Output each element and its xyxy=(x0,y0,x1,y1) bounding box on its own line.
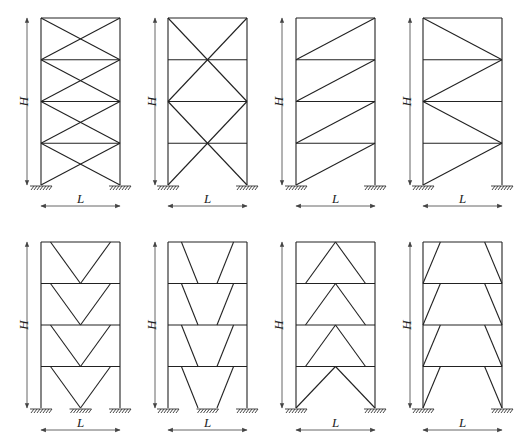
support-hatch xyxy=(116,186,119,190)
support-hatch xyxy=(158,186,161,190)
brace xyxy=(336,242,366,284)
width-label: L xyxy=(76,415,84,430)
support-hatch xyxy=(501,186,504,190)
support-hatch xyxy=(43,409,46,413)
support-hatch xyxy=(377,186,380,190)
support-hatch xyxy=(173,186,176,190)
support-hatch xyxy=(252,186,255,190)
brace xyxy=(336,367,376,409)
support-hatch xyxy=(201,409,204,413)
support-hatch xyxy=(286,409,289,413)
support-hatch xyxy=(252,409,255,413)
height-label: H xyxy=(271,320,286,331)
brace xyxy=(296,102,375,144)
brace xyxy=(423,367,440,409)
brace xyxy=(217,284,234,326)
support-hatch xyxy=(173,409,176,413)
support-hatch xyxy=(122,186,125,190)
support-hatch xyxy=(286,186,289,190)
support-hatch xyxy=(368,186,371,190)
support-hatch xyxy=(237,409,240,413)
support-hatch xyxy=(510,186,513,190)
support-hatch xyxy=(46,409,49,413)
support-hatch xyxy=(246,186,249,190)
support-hatch xyxy=(34,186,37,190)
support-hatch xyxy=(122,409,125,413)
support-hatch xyxy=(431,409,434,413)
support-hatch xyxy=(176,409,179,413)
support-hatch xyxy=(419,186,422,190)
width-label: L xyxy=(331,191,339,206)
brace xyxy=(81,284,111,326)
height-label: H xyxy=(16,320,31,331)
support-hatch xyxy=(301,409,304,413)
brace xyxy=(181,242,198,284)
support-hatch xyxy=(240,186,243,190)
support-hatch xyxy=(37,186,40,190)
support-hatch xyxy=(371,186,374,190)
height-label: H xyxy=(144,320,159,331)
height-label: H xyxy=(16,96,31,107)
fixed-support-icon xyxy=(412,186,434,190)
brace xyxy=(81,242,111,284)
width-label: L xyxy=(331,415,339,430)
brace xyxy=(296,60,375,102)
support-hatch xyxy=(498,186,501,190)
support-hatch xyxy=(377,409,380,413)
support-hatch xyxy=(119,186,122,190)
support-hatch xyxy=(301,186,304,190)
brace xyxy=(305,284,335,326)
support-hatch xyxy=(428,409,431,413)
support-hatch xyxy=(164,186,167,190)
support-hatch xyxy=(80,409,83,413)
support-hatch xyxy=(365,409,368,413)
fixed-support-icon xyxy=(157,186,179,190)
support-hatch xyxy=(125,186,128,190)
support-hatch xyxy=(40,186,43,190)
support-hatch xyxy=(304,186,307,190)
support-hatch xyxy=(116,409,119,413)
support-hatch xyxy=(507,186,510,190)
support-hatch xyxy=(161,409,164,413)
fixed-support-icon xyxy=(364,409,386,413)
support-hatch xyxy=(383,186,386,190)
support-hatch xyxy=(298,186,301,190)
support-hatch xyxy=(31,409,34,413)
support-hatch xyxy=(289,409,292,413)
brace xyxy=(423,242,440,284)
fixed-support-icon xyxy=(412,409,434,413)
support-hatch xyxy=(495,186,498,190)
support-hatch xyxy=(416,409,419,413)
braced-frames-figure: HLHLHLHLHLHLHLHL xyxy=(0,0,528,447)
support-hatch xyxy=(413,186,416,190)
brace xyxy=(296,367,336,409)
support-hatch xyxy=(243,409,246,413)
support-hatch xyxy=(295,409,298,413)
support-hatch xyxy=(304,409,307,413)
support-hatch xyxy=(498,409,501,413)
support-hatch xyxy=(40,409,43,413)
brace xyxy=(50,284,80,326)
support-hatch xyxy=(164,409,167,413)
support-hatch xyxy=(428,186,431,190)
brace xyxy=(296,18,375,60)
support-hatch xyxy=(510,409,513,413)
brace xyxy=(81,325,111,367)
support-hatch xyxy=(204,409,207,413)
support-hatch xyxy=(128,409,131,413)
brace xyxy=(217,242,234,284)
support-hatch xyxy=(289,186,292,190)
support-hatch xyxy=(240,409,243,413)
support-hatch xyxy=(198,409,201,413)
width-label: L xyxy=(458,191,466,206)
support-hatch xyxy=(419,409,422,413)
support-hatch xyxy=(128,186,131,190)
height-label: H xyxy=(399,96,414,107)
support-hatch xyxy=(113,186,116,190)
brace xyxy=(217,367,234,409)
support-hatch xyxy=(49,186,52,190)
support-hatch xyxy=(77,409,80,413)
support-hatch xyxy=(207,409,210,413)
brace xyxy=(296,143,375,185)
fixed-support-icon xyxy=(109,186,131,190)
